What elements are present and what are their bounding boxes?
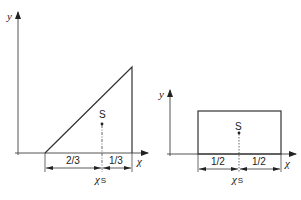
left-segment-left-label: 2/3 (66, 155, 80, 166)
centroid-diagram: y χ S 2/3 1/3 χS y χ S (0, 0, 301, 200)
right-centroid-point (238, 132, 241, 135)
left-centroid-point (101, 123, 104, 126)
right-segment-right-label: 1/2 (252, 156, 266, 167)
triangle-shape (45, 67, 132, 153)
left-y-axis-label: y (6, 10, 12, 22)
left-centroid-label: S (99, 109, 106, 120)
left-x-axis-label: χ (136, 155, 143, 167)
right-x-axis-label: χ (284, 157, 291, 169)
left-segment-right-label: 1/3 (109, 155, 123, 166)
right-y-axis-label: y (158, 88, 164, 100)
left-triangle-diagram: y χ S 2/3 1/3 χS (6, 10, 148, 185)
right-rectangle-diagram: y χ S 1/2 1/2 χS (158, 88, 296, 185)
right-segment-left-label: 1/2 (211, 156, 225, 167)
left-centroid-x-label: χS (94, 173, 106, 185)
right-centroid-x-label: χS (231, 173, 243, 185)
right-centroid-label: S (235, 121, 242, 132)
